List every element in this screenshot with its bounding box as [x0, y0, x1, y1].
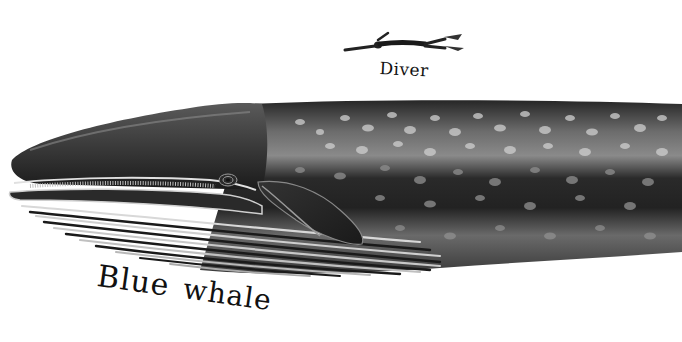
whale-head: [9, 103, 267, 214]
whale-eye: [219, 174, 237, 186]
illustration-canvas: Diver Bluewhale: [0, 0, 682, 342]
diver-figure: [345, 33, 464, 51]
diver-label: Diver: [379, 58, 429, 81]
